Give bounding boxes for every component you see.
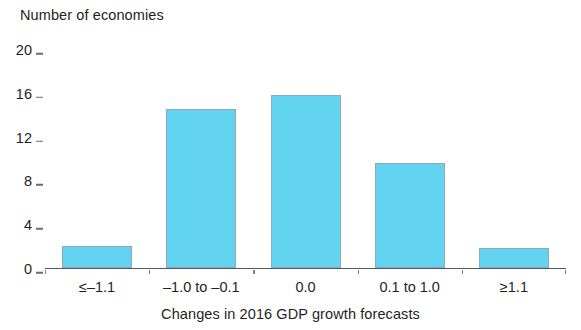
y-axis-ticks: 048121620 [0,50,43,270]
y-axis-tick: 4 [24,218,43,233]
x-axis-tick-mark [45,270,46,274]
x-axis-tick-mark [462,270,463,274]
y-axis-title: Number of economies [20,7,164,23]
x-axis-category-labels: ≤–1.1–1.0 to –0.10.00.1 to 1.0≥1.1 [45,279,566,301]
x-axis-category-label: 0.1 to 1.0 [379,279,439,295]
y-axis-tick-dash [36,97,43,99]
y-axis-tick-dash [36,53,43,55]
y-axis-tick-label: 8 [24,174,32,189]
plot-area [45,50,566,269]
bar [479,248,549,268]
x-axis-tick-mark [358,270,359,274]
bar [375,163,445,268]
x-axis-category-label: ≤–1.1 [79,279,115,295]
y-axis-tick-dash [36,140,43,142]
bar [62,246,132,268]
x-axis-category-label: –1.0 to –0.1 [163,279,240,295]
y-axis-tick-dash [36,228,43,230]
y-axis-tick: 0 [24,262,43,277]
y-axis-tick: 20 [16,43,43,58]
y-axis-tick-label: 20 [16,43,32,58]
x-axis-tick-mark [149,270,150,274]
y-axis-tick-label: 0 [24,262,32,277]
x-axis-tick-marks [45,270,566,275]
bar [166,109,236,268]
bar-chart-figure: Number of economies 048121620 ≤–1.1–1.0 … [0,0,581,330]
y-axis-tick-label: 4 [24,218,32,233]
y-axis-tick-label: 16 [16,87,32,102]
y-axis-tick: 8 [24,174,43,189]
y-axis-tick-label: 12 [16,130,32,145]
bar [271,95,341,268]
x-axis-category-label: ≥1.1 [500,279,528,295]
x-axis-tick-mark [253,270,254,274]
x-axis-category-label: 0.0 [295,279,315,295]
y-axis-tick: 12 [16,130,43,145]
x-axis-tick-mark [565,270,566,274]
y-axis-tick-dash [36,272,43,274]
y-axis-tick: 16 [16,87,43,102]
x-axis-title: Changes in 2016 GDP growth forecasts [0,306,581,322]
y-axis-tick-dash [36,184,43,186]
